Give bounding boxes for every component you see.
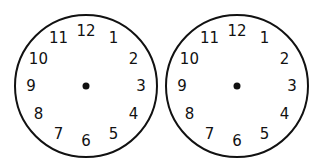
- clock-numeral: 4: [280, 105, 290, 123]
- right-clock: 121234567891011: [166, 15, 308, 157]
- clock-faces-diagram: 121234567891011 121234567891011: [0, 0, 321, 168]
- clock-numeral: 7: [205, 125, 215, 143]
- clock-numeral: 1: [109, 29, 119, 47]
- clock-numeral: 8: [185, 105, 195, 123]
- clock-numeral: 9: [26, 77, 36, 95]
- clock-numeral: 7: [54, 125, 64, 143]
- clock-numeral: 10: [29, 50, 48, 68]
- clock-numeral: 8: [34, 105, 44, 123]
- clock-numeral: 3: [287, 77, 297, 95]
- clock-numeral: 6: [232, 132, 242, 150]
- clock-numeral: 9: [177, 77, 187, 95]
- clock-numeral: 5: [109, 125, 119, 143]
- clock-numeral: 1: [260, 29, 270, 47]
- clock-numeral: 10: [180, 50, 199, 68]
- clock-numeral: 4: [129, 105, 139, 123]
- clock-center-dot: [234, 83, 241, 90]
- clock-numeral: 3: [136, 77, 146, 95]
- clock-numeral: 11: [200, 29, 219, 47]
- clock-center-dot: [83, 83, 90, 90]
- clock-numeral: 12: [76, 22, 95, 40]
- left-clock: 121234567891011: [15, 15, 157, 157]
- clock-numeral: 11: [49, 29, 68, 47]
- clock-numeral: 6: [81, 132, 91, 150]
- clock-numeral: 12: [227, 22, 246, 40]
- clock-numeral: 2: [129, 50, 139, 68]
- clock-numeral: 5: [260, 125, 270, 143]
- clock-numeral: 2: [280, 50, 290, 68]
